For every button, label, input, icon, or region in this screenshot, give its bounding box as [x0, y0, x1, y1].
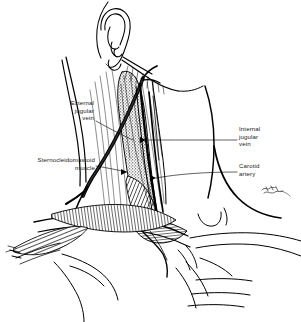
anatomical-illustration-figure: External jugular vein Sternocleidomastoi…	[0, 0, 301, 322]
label-external-jugular-vein: External jugular vein	[40, 99, 94, 122]
chest-contours	[176, 233, 301, 308]
upper-arm-contour	[54, 254, 118, 322]
label-sternocleidomastoid-muscle: Sternocleidomastoid muscle	[10, 156, 95, 171]
axilla-fold	[178, 246, 197, 270]
face-contour	[178, 86, 203, 91]
pectoral-fold	[198, 208, 227, 226]
leader-carotid	[156, 172, 237, 178]
shoulder-contour	[205, 86, 214, 198]
ear-and-head-outline	[97, 2, 130, 70]
neck-shoulder-junction	[214, 146, 281, 218]
label-carotid-artery: Carotid artery	[239, 162, 295, 177]
label-internal-jugular-vein: Internal jugular vein	[239, 125, 295, 148]
illustrator-signature	[262, 186, 290, 196]
